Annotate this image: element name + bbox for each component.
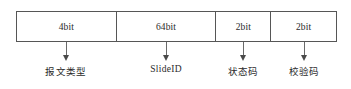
- field-cell-slide-id: 64bit: [117, 12, 217, 41]
- field-caption-checksum: 校验码: [289, 64, 320, 78]
- field-size-label: 4bit: [59, 22, 74, 32]
- field-size-label: 2bit: [296, 22, 311, 32]
- packet-frame-diagram: 4bit 64bit 2bit 2bit 报文类型 SlideID 状态码 校验…: [0, 0, 351, 89]
- field-cell-message-type: 4bit: [17, 12, 117, 41]
- field-caption-slide-id: SlideID: [150, 64, 182, 74]
- arrow-down-icon: [163, 55, 169, 61]
- arrow-down-icon: [63, 55, 69, 61]
- field-caption-message-type: 报文类型: [45, 64, 86, 78]
- field-size-label: 64bit: [156, 22, 176, 32]
- field-cell-checksum: 2bit: [271, 12, 336, 41]
- arrow-down-icon: [301, 55, 307, 61]
- frame-field-row: 4bit 64bit 2bit 2bit: [16, 11, 337, 42]
- field-cell-status-code: 2bit: [216, 12, 271, 41]
- arrow-down-icon: [240, 55, 246, 61]
- field-size-label: 2bit: [236, 22, 251, 32]
- field-caption-status-code: 状态码: [228, 64, 259, 78]
